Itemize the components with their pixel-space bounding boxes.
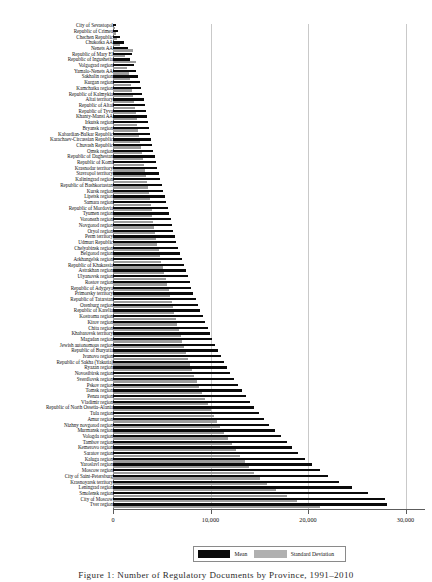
bar-standard-deviation [113, 232, 155, 234]
bar-row: Republic of Tyva [0, 110, 432, 115]
bar-standard-deviation [113, 358, 188, 360]
bar-row: Republic of Ingushetia [0, 58, 432, 63]
x-axis-line [113, 509, 425, 510]
bar-row: Kaluga region [0, 458, 432, 463]
bar-row: Orenburg region [0, 304, 432, 309]
bar-standard-deviation [113, 198, 150, 200]
bar-row: Primorsky territory [0, 292, 432, 297]
bar-row: Novgorod region [0, 224, 432, 229]
bar-standard-deviation [113, 129, 138, 131]
bar-standard-deviation [113, 124, 137, 126]
bar-row: Rostov region [0, 281, 432, 286]
bar-standard-deviation [113, 295, 170, 297]
bar-standard-deviation [113, 323, 177, 325]
figure-root: 010,00020,00030,000 City of SevastopolRe… [0, 0, 432, 582]
x-tick-0 [113, 509, 114, 514]
bar-row: Oryol region [0, 229, 432, 234]
bar-row: Republic of Bashkortastan [0, 184, 432, 189]
bar-row: Republic of Altai [0, 104, 432, 109]
bar-row: Krasnodar territory [0, 167, 432, 172]
bar-row: Omsk region [0, 150, 432, 155]
x-tick-label-0: 0 [111, 516, 114, 523]
bar-standard-deviation [113, 72, 129, 74]
bar-row: Kurgan region [0, 81, 432, 86]
legend-label-mean: Mean [234, 551, 247, 557]
bar-standard-deviation [113, 118, 137, 120]
bar-standard-deviation [113, 375, 194, 377]
bar-standard-deviation [113, 38, 117, 40]
x-tick-20000 [308, 509, 309, 514]
bar-row: Republic of Karelia [0, 309, 432, 314]
bar-standard-deviation [113, 455, 240, 457]
bar-row: Samara region [0, 201, 432, 206]
bar-row: Kamchatka region [0, 87, 432, 92]
x-tick-label-10000: 10,000 [202, 516, 220, 523]
legend-label-standard-deviation: Standard Deviation [291, 551, 334, 557]
bar-row: Nenets AA [0, 47, 432, 52]
bar-standard-deviation [113, 489, 276, 491]
bar-standard-deviation [113, 152, 142, 154]
bar-row: Republic of Sakha (Yakutia) [0, 361, 432, 366]
bar-row: Khanty-Mansi AA [0, 115, 432, 120]
bar-standard-deviation [113, 95, 133, 97]
bar-standard-deviation [113, 363, 190, 365]
bar-standard-deviation [113, 101, 134, 103]
bar-standard-deviation [113, 135, 139, 137]
bar-standard-deviation [113, 107, 135, 109]
bar-standard-deviation [113, 426, 220, 428]
bar-standard-deviation [113, 318, 176, 320]
bar-standard-deviation [113, 403, 208, 405]
bar-row: Ulyanovsk region [0, 275, 432, 280]
bar-row: Sakhalin region [0, 75, 432, 80]
bar-row: Republic of Crimea [0, 30, 432, 35]
x-tick-10000 [211, 509, 212, 514]
bar-standard-deviation [113, 386, 199, 388]
bar-standard-deviation [113, 55, 125, 57]
bar-row: Kostroma region [0, 315, 432, 320]
bar-row: Kemerovo region [0, 446, 432, 451]
bar-standard-deviation [113, 44, 120, 46]
bar-row: Altai territory [0, 98, 432, 103]
bar-row: Perm territory [0, 235, 432, 240]
bar-standard-deviation [113, 301, 172, 303]
bar-standard-deviation [113, 409, 211, 411]
bar-row: Yaroslavl region [0, 463, 432, 468]
bar-standard-deviation [113, 506, 320, 508]
bar-standard-deviation [113, 221, 153, 223]
bar-standard-deviation [113, 226, 154, 228]
bar-standard-deviation [113, 192, 149, 194]
bar-standard-deviation [113, 415, 214, 417]
bar-row: Republic of Daghestan [0, 155, 432, 160]
bar-standard-deviation [113, 432, 224, 434]
bar-standard-deviation [113, 49, 133, 51]
bar-row: Republic of Mordovia [0, 207, 432, 212]
bar-row: Leningrad region [0, 486, 432, 491]
bar-row: Volgograd region [0, 64, 432, 69]
bar-row: City of Sevastopol [0, 24, 432, 29]
bar-row: Tyumen region [0, 212, 432, 217]
bar-row: Voronezh region [0, 218, 432, 223]
bar-standard-deviation [113, 112, 136, 114]
bar-standard-deviation [113, 392, 202, 394]
bar-standard-deviation [113, 27, 115, 29]
bar-row: Kirov region [0, 321, 432, 326]
bar-row: Murmansk region [0, 429, 432, 434]
bar-row: Khabarovsk territory [0, 332, 432, 337]
bar-row: Vologda region [0, 435, 432, 440]
x-tick-label-30000: 30,000 [397, 516, 415, 523]
bar-standard-deviation [113, 78, 130, 80]
bar-row: Saratov region [0, 452, 432, 457]
bar-standard-deviation [113, 181, 147, 183]
bar-rows: City of SevastopolRepublic of CrimeaChec… [0, 24, 432, 509]
x-tick-30000 [406, 509, 407, 514]
bar-standard-deviation [113, 238, 156, 240]
bar-standard-deviation [113, 352, 186, 354]
bar-standard-deviation [113, 283, 167, 285]
bar-standard-deviation [113, 472, 254, 474]
bar-row: Chuvash Republic [0, 144, 432, 149]
legend-swatch-standard-deviation [254, 550, 286, 558]
bar-standard-deviation [113, 500, 297, 502]
bar-row: Sverdlovsk region [0, 378, 432, 383]
bar-standard-deviation [113, 261, 161, 263]
bar-row: Chukotka AA [0, 41, 432, 46]
